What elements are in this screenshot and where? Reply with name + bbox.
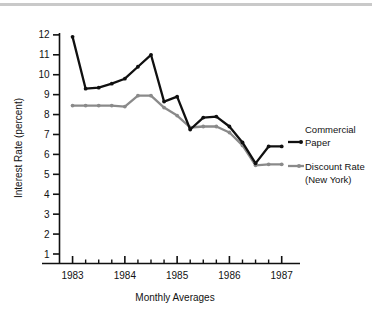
data-point — [228, 125, 232, 129]
y-tick-label: 3 — [44, 209, 50, 220]
y-tick-label: 7 — [44, 129, 50, 140]
legend: Commercial Paper Discount Rate (New York… — [288, 124, 365, 185]
data-point — [228, 131, 232, 135]
data-point — [254, 161, 258, 165]
y-tick-label: 11 — [39, 49, 50, 60]
y-axis-ticks — [53, 35, 60, 254]
data-point — [84, 87, 88, 91]
legend-dot-commercial-paper — [299, 140, 303, 144]
data-point — [149, 53, 153, 57]
data-point — [280, 162, 284, 166]
data-point — [149, 94, 153, 98]
data-point — [123, 105, 127, 109]
data-point — [214, 125, 218, 129]
y-tick-label: 4 — [44, 189, 50, 200]
x-axis: 19831984198519861987 — [42, 256, 300, 281]
data-point — [162, 106, 166, 110]
data-point — [136, 94, 140, 98]
data-point — [84, 104, 88, 108]
x-tick-label: 1983 — [61, 270, 84, 281]
plot-area — [71, 35, 284, 167]
x-tick-label: 1987 — [271, 270, 294, 281]
legend-dot-discount-rate — [297, 164, 301, 168]
chart-svg: 123456789101112 19831984198519861987 Com… — [0, 0, 372, 313]
x-axis-major-ticks — [73, 256, 282, 264]
y-tick-label: 8 — [44, 109, 50, 120]
y-tick-label: 10 — [38, 69, 50, 80]
data-point — [201, 125, 205, 129]
legend-discount-rate-line2: (New York) — [305, 174, 351, 185]
data-point — [175, 95, 179, 99]
data-series-layer — [71, 35, 284, 167]
data-point — [71, 35, 75, 39]
series-line — [73, 37, 282, 163]
data-point — [162, 100, 166, 104]
x-tick-label: 1985 — [166, 270, 189, 281]
y-tick-label: 9 — [44, 89, 50, 100]
y-tick-label: 12 — [38, 29, 50, 40]
y-tick-label: 5 — [44, 169, 50, 180]
data-point — [280, 145, 284, 149]
data-point — [110, 104, 114, 108]
data-point — [97, 104, 101, 108]
y-tick-label: 6 — [44, 149, 50, 160]
series-commercial-paper — [71, 35, 284, 165]
legend-discount-rate-line1: Discount Rate — [305, 161, 365, 172]
legend-commercial-paper-line2: Paper — [305, 137, 330, 148]
x-tick-label: 1984 — [114, 270, 137, 281]
data-point — [267, 145, 271, 149]
data-point — [241, 141, 245, 145]
x-axis-title: Monthly Averages — [135, 292, 214, 303]
data-point — [110, 82, 114, 86]
data-point — [71, 104, 75, 108]
legend-marker-lines — [288, 140, 304, 168]
data-point — [267, 162, 271, 166]
legend-commercial-paper-line1: Commercial — [305, 124, 356, 135]
interest-rate-line-chart: 123456789101112 19831984198519861987 Com… — [0, 0, 372, 313]
x-axis-tick-labels: 19831984198519861987 — [61, 270, 293, 281]
data-point — [123, 77, 127, 81]
data-point — [201, 116, 205, 120]
y-tick-label: 1 — [44, 249, 50, 260]
y-tick-label: 2 — [44, 229, 50, 240]
y-axis: 123456789101112 — [38, 29, 59, 264]
x-tick-label: 1986 — [218, 270, 241, 281]
data-point — [175, 114, 179, 118]
y-axis-title: Interest Rate (percent) — [13, 98, 24, 198]
data-point — [188, 128, 192, 132]
data-point — [97, 86, 101, 90]
y-axis-tick-labels: 123456789101112 — [38, 29, 50, 259]
data-point — [136, 65, 140, 69]
data-point — [214, 115, 218, 119]
